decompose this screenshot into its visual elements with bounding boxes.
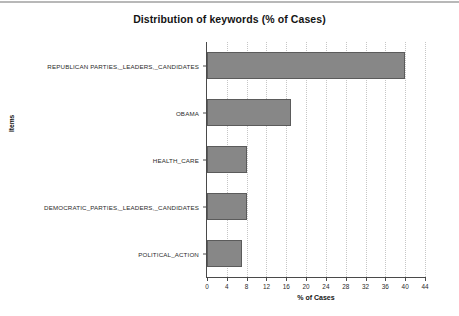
y-axis-tick — [203, 159, 207, 160]
y-axis-tick — [203, 112, 207, 113]
y-axis-title: Items — [8, 115, 15, 132]
x-axis-tick — [247, 277, 248, 281]
x-axis-tick-label: 12 — [263, 283, 270, 290]
y-axis-tick — [203, 65, 207, 66]
category-label: OBAMA — [176, 109, 199, 116]
x-axis-tick — [326, 277, 327, 281]
x-axis-line — [206, 277, 426, 278]
x-axis-tick — [266, 277, 267, 281]
gridline — [405, 42, 406, 277]
x-axis-tick — [366, 277, 367, 281]
x-axis-tick-label: 36 — [382, 283, 389, 290]
x-axis-tick-label: 16 — [283, 283, 290, 290]
bar — [207, 99, 291, 126]
chart-page: Distribution of keywords (% of Cases) RE… — [0, 0, 459, 316]
category-label: DEMOCRATIC_PARTIES,_LEADERS,_CANDIDATES — [44, 203, 199, 210]
x-axis-tick-label: 28 — [342, 283, 349, 290]
x-axis-tick — [425, 277, 426, 281]
category-label: HEALTH_CARE — [153, 156, 199, 163]
x-axis-tick-label: 0 — [205, 283, 209, 290]
x-axis-tick — [227, 277, 228, 281]
gridline — [425, 42, 426, 277]
bar — [207, 52, 405, 79]
x-axis-tick — [286, 277, 287, 281]
bar — [207, 240, 242, 267]
x-axis-title: % of Cases — [207, 294, 425, 301]
category-label: REPUBLICAN PARTIES,_LEADERS,_CANDIDATES — [47, 62, 199, 69]
y-axis-tick — [203, 206, 207, 207]
x-axis-tick — [346, 277, 347, 281]
x-axis-tick-label: 24 — [322, 283, 329, 290]
x-axis-tick-label: 20 — [303, 283, 310, 290]
y-axis-tick — [203, 253, 207, 254]
category-label: POLITICAL_ACTION — [138, 250, 199, 257]
x-axis-tick — [306, 277, 307, 281]
x-axis-tick — [385, 277, 386, 281]
x-axis-tick-label: 32 — [362, 283, 369, 290]
x-axis-tick-label: 44 — [421, 283, 428, 290]
bar — [207, 146, 247, 173]
x-axis-tick — [207, 277, 208, 281]
x-axis-tick-label: 4 — [225, 283, 229, 290]
x-axis-tick — [405, 277, 406, 281]
category-axis-labels: REPUBLICAN PARTIES,_LEADERS,_CANDIDATESO… — [0, 0, 203, 316]
x-axis-tick-label: 8 — [245, 283, 249, 290]
bar — [207, 193, 247, 220]
x-axis-tick-label: 40 — [402, 283, 409, 290]
